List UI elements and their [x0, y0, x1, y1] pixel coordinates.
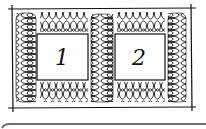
coil-right	[168, 13, 186, 102]
coil-center	[91, 14, 113, 102]
coil-top-left	[40, 12, 88, 32]
coil-left	[16, 13, 36, 102]
bottom-bar	[2, 124, 206, 128]
coil-top-right	[117, 12, 165, 32]
box-1: 1	[37, 34, 88, 80]
box-2: 2	[115, 34, 165, 80]
box-1-label: 1	[55, 45, 69, 70]
coil-bottom-left	[40, 82, 88, 102]
box-2-label: 2	[131, 45, 146, 70]
coil-bottom-right	[117, 82, 165, 102]
insulation-diagram: 1 2	[0, 0, 206, 129]
